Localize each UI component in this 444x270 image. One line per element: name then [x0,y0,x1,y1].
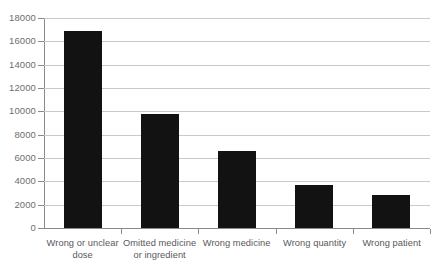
y-axis-line [44,18,45,229]
y-axis-tick-mark [38,18,44,19]
x-axis-baseline [44,228,430,229]
category-tick-mark [353,229,354,234]
y-axis-tick-mark [38,228,44,229]
y-axis-tick-mark [38,65,44,66]
category-tick-mark [430,229,431,234]
y-axis-tick-mark [38,158,44,159]
y-axis-tick: 0 [0,223,36,233]
y-axis-tick-mark [38,111,44,112]
bar [372,195,410,228]
bar-chart: 1800016000140001200010000800060004000200… [0,0,444,270]
category-label: Omitted medicine or ingredient [123,238,196,261]
y-axis-tick: 2000 [0,200,36,210]
y-axis-tick: 16000 [0,36,36,46]
y-axis-tick-label: 8000 [0,130,36,140]
y-axis-tick-label: 4000 [0,176,36,186]
category-label: Wrong quantity [278,238,351,250]
category-label: Wrong medicine [200,238,273,250]
y-axis-tick: 10000 [0,106,36,116]
category-label: Wrong or unclear dose [46,238,119,261]
y-axis-tick: 12000 [0,83,36,93]
gridline [44,18,430,19]
y-axis-tick: 14000 [0,60,36,70]
bar [295,185,333,228]
category-tick-mark [198,229,199,234]
y-axis-tick-mark [38,135,44,136]
y-axis-tick: 6000 [0,153,36,163]
category-tick-mark [276,229,277,234]
category-tick-mark [121,229,122,234]
y-axis-tick-mark [38,41,44,42]
y-axis-tick-mark [38,205,44,206]
category-label: Wrong patient [355,238,428,250]
y-axis-tick: 4000 [0,176,36,186]
bar [141,114,179,228]
bar [64,31,102,228]
y-axis-tick-label: 16000 [0,36,36,46]
y-axis-tick-mark [38,181,44,182]
y-axis-tick-label: 12000 [0,83,36,93]
y-axis-tick-label: 2000 [0,200,36,210]
y-axis-tick-label: 10000 [0,106,36,116]
y-axis-tick-label: 0 [0,223,36,233]
y-axis-tick-label: 18000 [0,13,36,23]
y-axis-tick-label: 14000 [0,60,36,70]
y-axis-tick: 8000 [0,130,36,140]
y-axis-tick-mark [38,88,44,89]
y-axis-tick: 18000 [0,13,36,23]
bar [218,151,256,228]
y-axis-tick-label: 6000 [0,153,36,163]
